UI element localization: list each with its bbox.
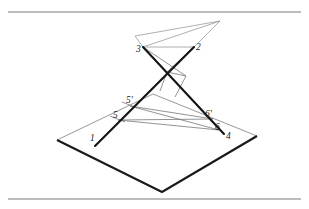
point-label-1: 1 [90,133,95,143]
point-label-4: 4 [226,131,231,141]
thick-line-1-2 [95,47,194,146]
point-label-3: 3 [135,44,141,54]
figure-canvas: 1 2 3 4 5 5' 6 6' [0,0,309,209]
plane-near-edges [57,136,257,192]
point-label-5: 5 [113,110,118,120]
ray-5-to-6prime [118,119,213,120]
ray-5-to-6 [118,120,219,130]
point-label-5-prime: 5' [126,95,134,105]
point-label-6: 6 [215,122,220,132]
geometry-diagram: 1 2 3 4 5 5' 6 6' [0,0,309,209]
thick-line-3-4 [143,47,224,134]
point-label-2: 2 [196,42,201,52]
point-label-6-prime: 6' [205,109,213,119]
ray-apex-to-p3 [143,21,220,47]
